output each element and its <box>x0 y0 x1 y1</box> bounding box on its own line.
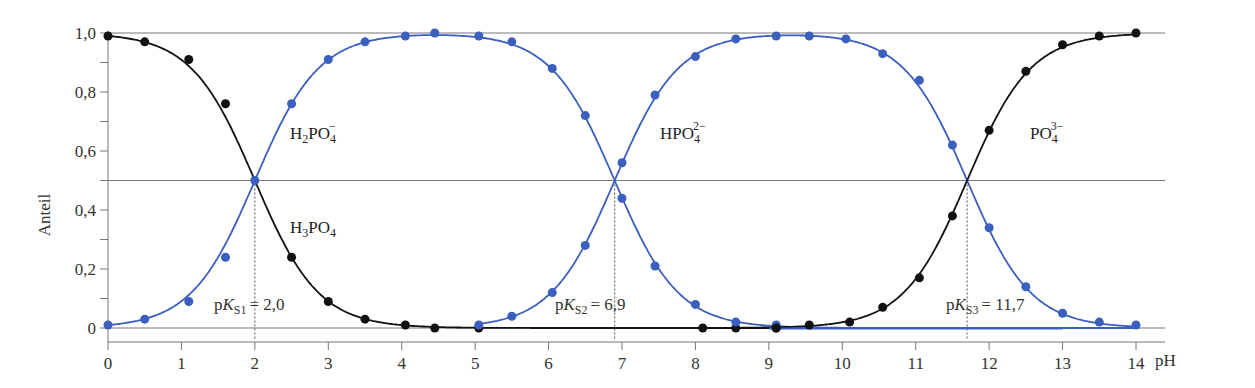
x-tick-label: 11 <box>908 354 924 373</box>
data-point <box>548 64 557 73</box>
x-tick-label: 13 <box>1054 354 1071 373</box>
data-point <box>1021 282 1030 291</box>
y-tick-label: 0,6 <box>75 142 96 161</box>
data-point <box>401 321 410 330</box>
y-tick-label: 0,4 <box>75 201 97 220</box>
x-tick-label: 1 <box>177 354 186 373</box>
data-point <box>401 31 410 40</box>
data-point <box>430 29 439 38</box>
data-point <box>184 55 193 64</box>
speciation-chart: 00,20,40,60,81,0 01234567891011121314 pK… <box>0 0 1255 388</box>
y-tick-label: 1,0 <box>75 24 96 43</box>
y-tick-label: 0,8 <box>75 83 96 102</box>
data-point <box>948 141 957 150</box>
data-point <box>1021 67 1030 76</box>
data-point <box>1095 318 1104 327</box>
data-point <box>691 52 700 61</box>
data-point <box>507 37 516 46</box>
data-point <box>324 297 333 306</box>
data-point <box>184 297 193 306</box>
x-tick-label: 4 <box>397 354 406 373</box>
data-point <box>948 211 957 220</box>
data-point <box>104 321 113 330</box>
data-point <box>841 34 850 43</box>
data-point <box>324 55 333 64</box>
data-point <box>691 300 700 309</box>
data-point <box>581 241 590 250</box>
data-point <box>772 324 781 333</box>
pka-markers: pKS1= 2,0pKS2= 6,9pKS3= 11,7 <box>214 181 1025 341</box>
y-axis: 00,20,40,60,81,0 <box>75 24 108 342</box>
x-tick-label: 7 <box>618 354 627 373</box>
y-tick-label: 0 <box>88 319 97 338</box>
data-point <box>1058 309 1067 318</box>
x-tick-label: 8 <box>691 354 700 373</box>
x-tick-label: 0 <box>104 354 113 373</box>
pka-label: pKS1= 2,0 <box>214 295 285 317</box>
data-point <box>805 31 814 40</box>
data-point <box>915 76 924 85</box>
data-point <box>140 315 149 324</box>
data-point <box>507 312 516 321</box>
x-tick-label: 12 <box>981 354 998 373</box>
x-axis: 01234567891011121314 <box>104 342 1165 373</box>
data-point <box>474 31 483 40</box>
data-point <box>878 303 887 312</box>
data-point <box>915 273 924 282</box>
data-point <box>731 318 740 327</box>
data-point <box>1058 40 1067 49</box>
data-point <box>104 31 113 40</box>
x-axis-title: pH <box>1155 351 1176 370</box>
data-point <box>548 288 557 297</box>
curve-h2po4- <box>108 35 1136 328</box>
data-point <box>250 176 259 185</box>
pka-label: pKS2= 6,9 <box>555 295 626 317</box>
data-point <box>221 99 230 108</box>
x-tick-label: 14 <box>1128 354 1146 373</box>
y-axis-title: Anteil <box>35 193 54 236</box>
x-tick-label: 3 <box>324 354 333 373</box>
x-tick-label: 10 <box>834 354 851 373</box>
data-point <box>618 158 627 167</box>
data-point <box>651 262 660 271</box>
data-point <box>1095 31 1104 40</box>
data-point <box>430 324 439 333</box>
data-point <box>1132 29 1141 38</box>
data-point <box>772 31 781 40</box>
y-tick-label: 0,2 <box>75 260 96 279</box>
data-point <box>845 318 854 327</box>
data-point <box>287 253 296 262</box>
x-tick-label: 6 <box>544 354 553 373</box>
data-point <box>985 223 994 232</box>
reference-lines <box>108 33 1165 328</box>
data-point <box>651 90 660 99</box>
data-point <box>361 37 370 46</box>
data-point <box>140 37 149 46</box>
data-point <box>618 194 627 203</box>
data-point <box>1132 321 1141 330</box>
species-curves <box>108 35 1136 329</box>
species-label: H3PO4 <box>290 218 336 240</box>
data-point <box>985 126 994 135</box>
data-point <box>221 253 230 262</box>
x-tick-label: 2 <box>251 354 260 373</box>
pka-label: pKS3= 11,7 <box>946 295 1025 317</box>
data-point <box>698 324 707 333</box>
species-label: H2PO4− <box>290 119 336 146</box>
data-point <box>878 49 887 58</box>
species-label: HPO42− <box>660 119 706 146</box>
data-point <box>474 321 483 330</box>
species-label: PO43− <box>1030 119 1064 146</box>
x-tick-label: 5 <box>471 354 480 373</box>
data-point <box>287 99 296 108</box>
x-tick-label: 9 <box>765 354 774 373</box>
data-point <box>361 315 370 324</box>
data-point <box>805 321 814 330</box>
data-point <box>581 111 590 120</box>
data-point <box>731 34 740 43</box>
